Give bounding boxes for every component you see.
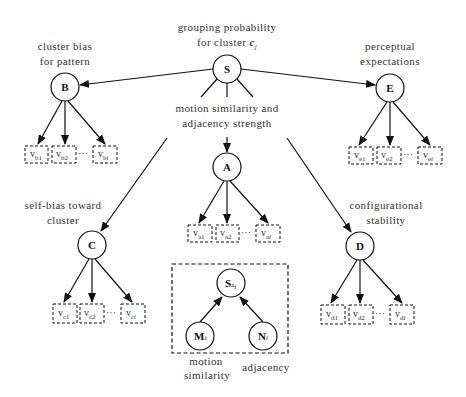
- svg-text:vdi: vdi: [395, 308, 406, 322]
- v-e-2: ve2: [377, 147, 401, 164]
- v-b-1: vb1: [25, 146, 48, 163]
- svg-text:S: S: [224, 63, 230, 75]
- node-n-caption: adjacency: [242, 361, 290, 373]
- svg-text:vai: vai: [261, 227, 271, 241]
- node-e-caption-line2: expectations: [360, 55, 420, 67]
- v-c-1: vc1: [53, 304, 77, 323]
- svg-text:ve2: ve2: [381, 149, 393, 163]
- edge-s-c: [101, 138, 167, 231]
- svg-text:vc1: vc1: [58, 307, 70, 321]
- svg-text:va2: va2: [220, 227, 232, 241]
- v-a-2: va2: [216, 225, 239, 242]
- ellipsis: ···: [403, 149, 413, 160]
- edge-s-b: [80, 69, 213, 85]
- svg-text:vd2: vd2: [353, 308, 366, 322]
- v-e-i: vei: [418, 147, 442, 164]
- v-c-i: vci: [121, 304, 145, 323]
- node-c-caption-line2: cluster: [47, 214, 79, 226]
- edge-n-s: [240, 297, 263, 322]
- node-d-caption-line1: configurational: [349, 199, 422, 211]
- svg-text:vd1: vd1: [326, 308, 339, 322]
- v-d-2: vd2: [349, 305, 373, 324]
- node-m-caption-line1: motion: [189, 355, 223, 367]
- node-e-caption-line1: perceptual: [365, 40, 415, 52]
- svg-text:vei: vei: [423, 149, 433, 163]
- node-s-ai: Sai: [217, 269, 245, 297]
- svg-text:C: C: [88, 239, 96, 251]
- svg-text:vc2: vc2: [84, 307, 96, 321]
- svg-text:vbi: vbi: [98, 148, 109, 162]
- v-b-i: vbi: [93, 146, 117, 163]
- node-c-caption-line1: self-bias toward: [25, 199, 102, 211]
- edge-s-d: [287, 138, 351, 232]
- v-b-2: vb2: [52, 146, 76, 163]
- svg-text:vb1: vb1: [30, 148, 43, 162]
- ellipsis: ···: [78, 148, 88, 159]
- svg-text:B: B: [61, 81, 69, 93]
- node-d: D: [346, 232, 374, 260]
- svg-text:E: E: [386, 82, 393, 94]
- node-c: C: [78, 231, 106, 259]
- node-m-i: Mi: [186, 322, 214, 350]
- ellipsis: ···: [241, 227, 251, 238]
- v-a-1: va1: [188, 225, 212, 242]
- v-c-2: vc2: [80, 304, 104, 323]
- node-e: E: [376, 74, 404, 102]
- edge-caption-line1: motion similarity and: [175, 102, 278, 114]
- node-a: A: [213, 153, 241, 181]
- node-n-i: Ni: [249, 322, 277, 350]
- svg-text:va1: va1: [193, 227, 205, 241]
- root-caption-line2: for cluster cj: [197, 36, 257, 51]
- node-s: S: [213, 55, 241, 83]
- svg-text:ve1: ve1: [354, 149, 366, 163]
- svg-text:vb2: vb2: [56, 148, 69, 162]
- v-a-i: vai: [256, 225, 280, 242]
- ellipsis: ···: [106, 307, 116, 318]
- v-e-1: ve1: [349, 147, 373, 164]
- node-b-caption-line2: for pattern: [40, 55, 91, 67]
- edge-s-e: [241, 69, 375, 85]
- root-caption-line1: grouping probability: [178, 21, 277, 33]
- edge-m-s: [200, 297, 222, 322]
- bayesian-network-diagram: grouping probability for cluster cj S mo…: [0, 0, 466, 397]
- svg-text:A: A: [223, 161, 231, 173]
- node-m-caption-line2: similarity: [184, 369, 230, 381]
- node-b-caption-line1: cluster bias: [38, 40, 93, 52]
- v-d-1: vd1: [321, 305, 345, 324]
- svg-text:vci: vci: [126, 307, 136, 321]
- svg-text:D: D: [356, 240, 364, 252]
- edge-caption-line2: adjacency strength: [182, 117, 271, 129]
- edge-s-c-stub: [201, 79, 217, 97]
- node-d-caption-line2: stability: [366, 214, 405, 226]
- ellipsis: ···: [375, 308, 385, 319]
- node-b: B: [51, 73, 79, 101]
- v-d-i: vdi: [390, 305, 414, 324]
- edge-s-d-stub: [237, 79, 253, 97]
